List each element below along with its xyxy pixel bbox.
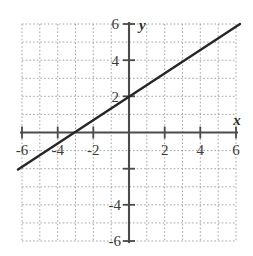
y-axis-label: y xyxy=(137,17,146,33)
y-tick-label-4: 4 xyxy=(112,53,120,69)
y-tick-label--6: -6 xyxy=(109,233,122,249)
graph-canvas: -6 -4 -2 2 4 6 6 4 2 -4 -6 y x xyxy=(0,0,253,256)
y-tick-label--4: -4 xyxy=(109,197,122,213)
y-tick-label-2: 2 xyxy=(112,89,120,105)
coordinate-plane-graph: -6 -4 -2 2 4 6 6 4 2 -4 -6 y x xyxy=(0,0,253,256)
x-tick-label-4: 4 xyxy=(197,142,205,158)
x-tick-label--4: -4 xyxy=(51,142,64,158)
x-tick-label-6: 6 xyxy=(232,142,240,158)
graph-background xyxy=(0,0,253,256)
y-tick-label-6: 6 xyxy=(112,16,120,32)
x-tick-label--6: -6 xyxy=(16,142,29,158)
x-tick-label-2: 2 xyxy=(161,142,169,158)
x-axis-label: x xyxy=(232,112,241,128)
x-tick-label--2: -2 xyxy=(87,142,100,158)
